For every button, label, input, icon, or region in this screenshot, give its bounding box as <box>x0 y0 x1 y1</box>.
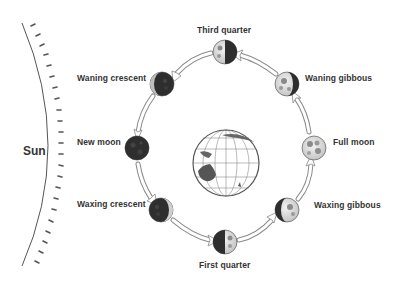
label-waning-gibbous: Waning gibbous <box>305 73 372 83</box>
label-first-quarter: First quarter <box>199 260 250 270</box>
moon-waxing-gibbous <box>275 198 299 222</box>
label-third-quarter: Third quarter <box>197 25 251 35</box>
moon-third-quarter <box>213 40 237 64</box>
moon-first-quarter <box>213 230 237 254</box>
moon-waxing-crescent <box>149 198 173 222</box>
moon-new <box>125 136 149 160</box>
earth-globe <box>193 130 259 196</box>
label-full-moon: Full moon <box>333 137 375 147</box>
label-new-moon: New moon <box>77 137 121 147</box>
label-waxing-gibbous: Waxing gibbous <box>314 200 381 210</box>
moon-waning-crescent <box>150 72 174 96</box>
label-waxing-crescent: Waxing crescent <box>77 199 146 209</box>
moon-waning-gibbous <box>275 72 299 96</box>
sun-label: Sun <box>23 144 46 158</box>
moon-full <box>302 136 326 160</box>
lunar-phase-diagram: Sun Third quarter Waning gibbous Full mo… <box>0 0 398 290</box>
label-waning-crescent: Waning crescent <box>77 73 146 83</box>
